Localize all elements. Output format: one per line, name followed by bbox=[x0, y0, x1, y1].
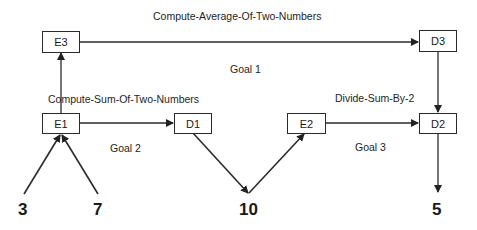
node-e1-label: E1 bbox=[54, 118, 67, 130]
node-e1: E1 bbox=[42, 113, 80, 134]
task-label-sum: Compute-Sum-Of-Two-Numbers bbox=[48, 93, 199, 105]
node-e2: E2 bbox=[287, 113, 326, 134]
task-label-divide: Divide-Sum-By-2 bbox=[335, 92, 414, 104]
edge-3-e1 bbox=[24, 135, 60, 194]
edge-10-e2 bbox=[249, 134, 304, 193]
node-e2-label: E2 bbox=[300, 118, 313, 130]
value-sum: 10 bbox=[239, 200, 258, 220]
node-e3: E3 bbox=[42, 31, 80, 53]
task-label-average: Compute-Average-Of-Two-Numbers bbox=[153, 10, 321, 22]
goal1-label: Goal 1 bbox=[230, 63, 261, 75]
node-d1-label: D1 bbox=[186, 118, 200, 130]
node-d1: D1 bbox=[174, 113, 212, 134]
node-d2: D2 bbox=[419, 113, 457, 134]
goal2-label: Goal 2 bbox=[110, 142, 141, 154]
value-result: 5 bbox=[432, 200, 441, 220]
value-input-b: 7 bbox=[93, 200, 102, 220]
node-d2-label: D2 bbox=[431, 118, 445, 130]
goal3-label: Goal 3 bbox=[355, 141, 386, 153]
edge-7-e1 bbox=[62, 135, 98, 194]
value-input-a: 3 bbox=[18, 200, 27, 220]
node-d3: D3 bbox=[419, 30, 457, 52]
node-e3-label: E3 bbox=[54, 36, 67, 48]
edge-d1-10 bbox=[193, 133, 248, 193]
node-d3-label: D3 bbox=[431, 35, 445, 47]
